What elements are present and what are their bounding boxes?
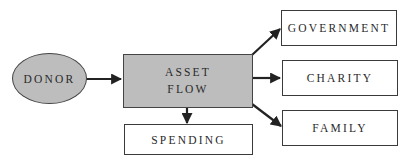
government-label: GOVERNMENT — [288, 22, 391, 34]
spending-node: SPENDING — [124, 124, 253, 155]
government-node: GOVERNMENT — [281, 10, 397, 46]
arrow-asset-flow-to-family — [252, 104, 281, 126]
spending-label: SPENDING — [151, 134, 225, 146]
donor-node: DONOR — [12, 53, 87, 104]
charity-node: CHARITY — [282, 60, 398, 96]
asset-flow-node: ASSET FLOW — [123, 54, 253, 108]
asset-flow-label-line1: ASSET — [165, 64, 211, 81]
donor-label: DONOR — [24, 73, 76, 85]
arrow-asset-flow-to-government — [252, 29, 280, 55]
charity-label: CHARITY — [307, 72, 374, 84]
family-node: FAMILY — [282, 110, 398, 146]
family-label: FAMILY — [312, 122, 367, 134]
asset-flow-label-line2: FLOW — [167, 81, 208, 98]
